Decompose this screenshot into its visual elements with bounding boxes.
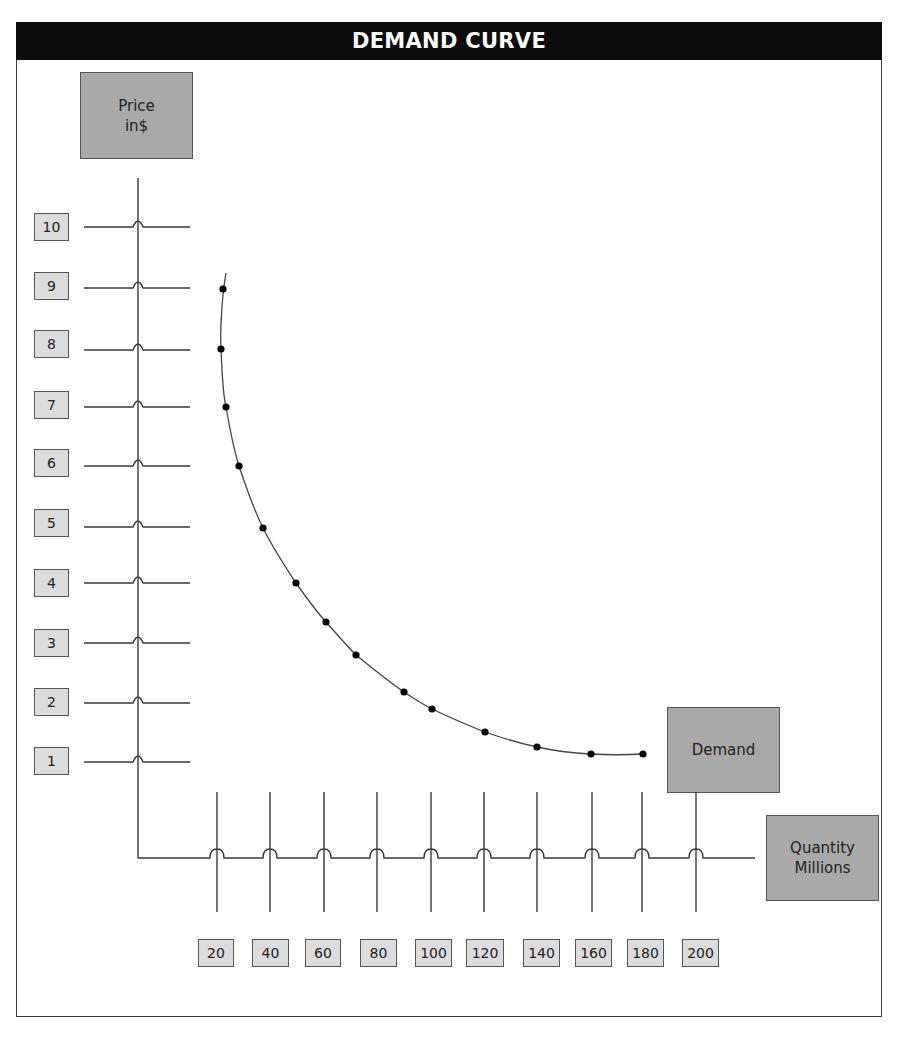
y-tick-line (84, 401, 190, 407)
data-point (219, 285, 226, 292)
y-tick-line (84, 460, 190, 466)
data-point (400, 688, 407, 695)
y-tick-line (84, 344, 190, 350)
data-point (428, 705, 435, 712)
data-point (222, 403, 229, 410)
plot-area (0, 0, 900, 1038)
data-point (235, 462, 242, 469)
data-point (217, 345, 224, 352)
demand-markers (217, 285, 646, 757)
data-point (259, 524, 266, 531)
y-tick-line (84, 221, 190, 227)
data-point (587, 750, 594, 757)
data-point (481, 728, 488, 735)
y-tick-line (84, 282, 190, 288)
y-tick-line (84, 697, 190, 703)
y-tick-line (84, 756, 190, 762)
x-axis-line (138, 849, 755, 858)
y-tick-line (84, 577, 190, 583)
y-tick-line (84, 637, 190, 643)
data-point (322, 618, 329, 625)
demand-curve (221, 273, 643, 755)
data-point (533, 743, 540, 750)
data-point (292, 579, 299, 586)
data-point (352, 651, 359, 658)
data-point (639, 750, 646, 757)
y-tick-line (84, 521, 190, 527)
